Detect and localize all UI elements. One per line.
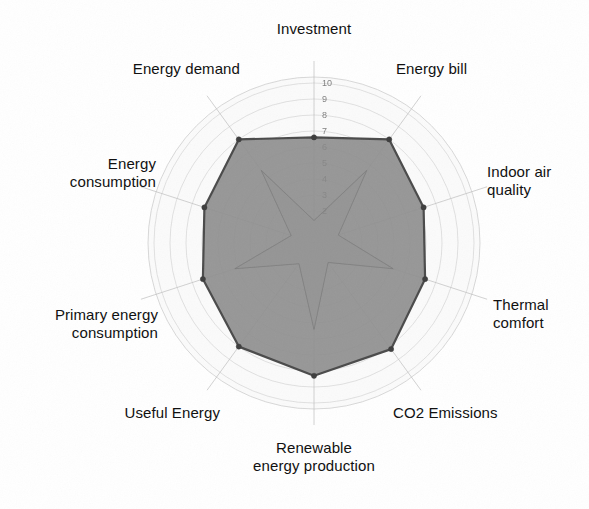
svg-text:7: 7 bbox=[322, 126, 327, 136]
axis-label-co2-emissions: CO2 Emissions bbox=[393, 404, 568, 422]
svg-text:10: 10 bbox=[322, 78, 332, 88]
svg-text:5: 5 bbox=[322, 158, 327, 168]
axis-label-thermal-comfort: Thermal comfort bbox=[493, 296, 588, 332]
axis-label-indoor-air-quality: Indoor air quality bbox=[487, 163, 587, 199]
svg-text:4: 4 bbox=[322, 174, 327, 184]
axis-label-energy-bill: Energy bill bbox=[396, 60, 546, 78]
svg-text:8: 8 bbox=[322, 110, 327, 120]
radar-chart: 1098765432 Investment Energy bill Indoor… bbox=[0, 0, 589, 509]
svg-text:6: 6 bbox=[322, 142, 327, 152]
axis-label-investment: Investment bbox=[234, 20, 394, 38]
series-outer-polygon bbox=[203, 137, 425, 375]
svg-text:9: 9 bbox=[322, 94, 327, 104]
axis-label-renewable-energy-production: Renewable energy production bbox=[224, 439, 404, 475]
axis-label-energy-consumption: Energy consumption bbox=[22, 155, 156, 191]
svg-text:2: 2 bbox=[322, 206, 327, 216]
axis-label-primary-energy-consumption: Primary energy consumption bbox=[6, 306, 158, 342]
axis-label-energy-demand: Energy demand bbox=[55, 60, 240, 78]
axis-label-useful-energy: Useful Energy bbox=[48, 404, 220, 422]
svg-text:3: 3 bbox=[322, 190, 327, 200]
